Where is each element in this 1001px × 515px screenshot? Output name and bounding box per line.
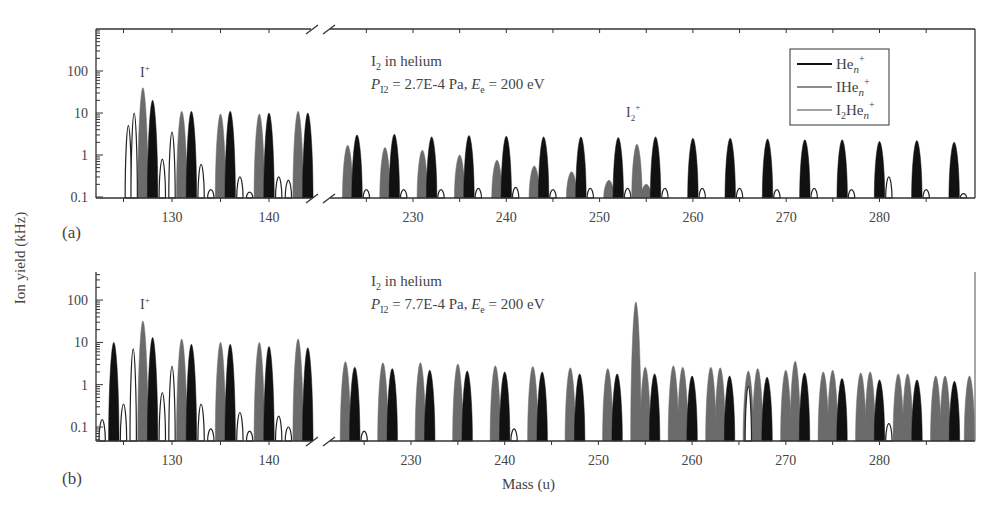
peak-henplus	[186, 344, 196, 441]
peak-henplus	[387, 369, 397, 441]
peak-henplus	[874, 380, 884, 441]
panel-b-peaks	[99, 302, 975, 441]
y-tick-label: 1	[81, 148, 88, 163]
peak-i2henplus	[120, 404, 126, 441]
peak-henplus	[800, 140, 810, 198]
peak-i2henplus	[699, 188, 705, 198]
x-tick-label: 240	[496, 210, 517, 225]
peak-ihenplus	[138, 321, 148, 441]
peak-ihenplus	[528, 366, 538, 441]
peak-henplus	[762, 377, 772, 441]
peak-henplus	[303, 348, 313, 441]
peak-henplus	[225, 111, 235, 198]
peak-i2henplus	[475, 188, 481, 198]
peak-ihenplus	[632, 144, 642, 198]
peak-i2henplus	[361, 431, 367, 441]
peak-henplus	[186, 111, 196, 198]
peak-henplus	[462, 371, 472, 441]
peak-henplus	[912, 380, 922, 441]
x-tick-label: 260	[682, 453, 703, 468]
peak-i2henplus	[285, 427, 291, 441]
peak-ihenplus	[490, 366, 500, 441]
panel-a-title-line2: PI2 = 2.7E-4 Pa, Ee = 200 eV	[370, 76, 545, 95]
peak-i2henplus	[237, 177, 243, 198]
peak-henplus	[264, 113, 274, 198]
peak-i2henplus	[169, 366, 175, 441]
panel-a-y-ticks: 1001010.1	[67, 31, 103, 205]
peak-henplus	[389, 134, 399, 198]
peak-ihenplus	[254, 114, 264, 198]
peak-ihenplus	[293, 339, 303, 441]
peak-ihenplus	[453, 364, 463, 441]
peak-henplus	[538, 137, 548, 198]
peak-i2henplus	[198, 164, 204, 198]
panel-a-label: (a)	[62, 223, 81, 242]
peak-i2henplus	[886, 177, 892, 198]
peak-ihenplus	[293, 111, 303, 198]
x-tick-label: 140	[259, 210, 280, 225]
peak-ihenplus	[215, 114, 225, 198]
panel-b-label: (b)	[62, 469, 82, 488]
x-tick-label: 230	[403, 210, 424, 225]
x-tick-label: 240	[494, 453, 515, 468]
peak-henplus	[837, 379, 847, 441]
peak-i2henplus	[774, 190, 780, 198]
panel-b-x-ticks: 130140230240250260270280	[124, 441, 927, 468]
peak-ihenplus	[678, 367, 688, 441]
y-tick-label: 0.1	[71, 420, 89, 435]
peak-henplus	[649, 374, 659, 441]
peak-i2henplus	[130, 349, 136, 441]
peak-henplus	[147, 100, 157, 198]
peak-i2henplus	[99, 420, 105, 441]
peak-henplus	[264, 346, 274, 441]
y-axis-label: Ion yield (kHz)	[12, 212, 29, 304]
peak-henplus	[225, 344, 235, 441]
peak-ihenplus	[380, 148, 390, 198]
panel-b-ion-label: I+	[140, 295, 150, 312]
peak-i2henplus	[246, 192, 252, 198]
peak-ihenplus	[902, 374, 912, 441]
peak-ihenplus	[604, 180, 614, 198]
peak-i2henplus	[131, 113, 137, 198]
peak-henplus	[949, 142, 959, 198]
mass-spectrum-chart: 1001010.1 130140230240250260270280 10010…	[0, 0, 1001, 515]
panel-a-ion-label: I+	[140, 63, 150, 80]
y-tick-label: 0.1	[71, 190, 89, 205]
peak-i2henplus	[276, 177, 282, 198]
peak-ihenplus	[827, 370, 837, 441]
y-tick-label: 10	[74, 106, 88, 121]
peak-i2henplus	[237, 413, 243, 441]
peak-ihenplus	[631, 302, 641, 441]
x-tick-label: 260	[682, 210, 703, 225]
peak-ihenplus	[415, 363, 425, 441]
peak-i2henplus	[438, 190, 444, 198]
peak-henplus	[500, 372, 510, 441]
peak-ihenplus	[818, 372, 828, 441]
peak-henplus	[837, 140, 847, 198]
x-tick-label: 130	[162, 453, 183, 468]
peak-ihenplus	[492, 160, 502, 198]
y-tick-label: 1	[81, 378, 88, 393]
peak-henplus	[574, 374, 584, 441]
peak-henplus	[725, 138, 735, 198]
panel-b-title-line2: PI2 = 7.7E-4 Pa, Ee = 200 eV	[370, 296, 545, 315]
x-axis-label: Mass (u)	[502, 476, 555, 493]
peak-henplus	[303, 113, 313, 198]
peak-ihenplus	[964, 376, 974, 441]
peak-ihenplus	[215, 342, 225, 441]
peak-henplus	[613, 138, 623, 198]
peak-i2henplus	[246, 431, 252, 441]
peak-henplus	[799, 373, 809, 441]
peak-ihenplus	[177, 111, 187, 198]
peak-ihenplus	[865, 372, 875, 441]
panel-b-title-line1: I2 in helium	[371, 273, 442, 292]
peak-ihenplus	[340, 362, 350, 441]
peak-henplus	[109, 342, 119, 441]
x-tick-label: 280	[869, 453, 890, 468]
peak-i2henplus	[511, 429, 517, 441]
peak-ihenplus	[790, 361, 800, 441]
y-tick-label: 100	[67, 293, 88, 308]
peak-i2henplus	[159, 393, 165, 441]
peak-i2henplus	[276, 416, 282, 441]
x-tick-label: 250	[589, 210, 610, 225]
